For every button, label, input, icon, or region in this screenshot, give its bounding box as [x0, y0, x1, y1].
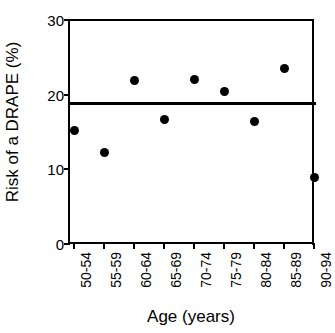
- x-axis-tick: [253, 243, 255, 249]
- x-axis-tick: [163, 243, 165, 249]
- x-axis-tick-label: 70-74: [199, 252, 213, 306]
- data-point: [160, 115, 169, 124]
- reference-line: [70, 102, 316, 105]
- data-point: [70, 126, 79, 135]
- x-axis-tick-label-text: 85-89: [289, 252, 303, 306]
- x-axis-tick-label-text: 75-79: [229, 252, 243, 306]
- x-axis-tick: [313, 243, 315, 249]
- x-axis-tick-label-text: 50-54: [79, 252, 93, 306]
- y-axis-tick: [64, 243, 70, 245]
- x-axis-tick-label: 60-64: [139, 252, 153, 306]
- data-point: [250, 117, 259, 126]
- x-axis-tick-label-text: 80-84: [259, 252, 273, 306]
- x-axis-tick-label: 55-59: [109, 252, 123, 306]
- x-axis-title: Age (years): [68, 307, 314, 327]
- x-axis-tick-label-text: 65-69: [169, 252, 183, 306]
- x-axis-tick-label-text: 60-64: [139, 252, 153, 306]
- x-axis-tick-label: 65-69: [169, 252, 183, 306]
- x-axis-tick: [133, 243, 135, 249]
- x-axis-tick-label: 90-94: [319, 252, 333, 306]
- data-point: [280, 64, 289, 73]
- x-axis-tick: [103, 243, 105, 249]
- y-axis-tick-label: 30: [34, 13, 64, 28]
- y-axis-tick-label: 10: [34, 162, 64, 177]
- y-axis-title: Risk of a DRAPE (%): [2, 0, 24, 244]
- x-axis-tick-labels: 50-5455-5960-6465-6970-7475-7980-8485-89…: [68, 252, 314, 307]
- y-axis-tick-label: 20: [34, 87, 64, 102]
- y-axis-tick: [64, 94, 70, 96]
- y-axis-tick-labels: 0102030: [30, 0, 64, 333]
- data-point: [100, 148, 109, 157]
- plot-area: [68, 20, 314, 244]
- y-axis-tick-label: 0: [34, 237, 64, 252]
- x-axis-tick-label-text: 90-94: [319, 252, 333, 306]
- y-axis-tick: [64, 168, 70, 170]
- data-point: [220, 87, 229, 96]
- x-axis-tick: [283, 243, 285, 249]
- data-point: [130, 76, 139, 85]
- data-point: [190, 75, 199, 84]
- chart-figure: Risk of a DRAPE (%) 0102030 50-5455-5960…: [0, 0, 335, 333]
- x-axis-tick: [193, 243, 195, 249]
- x-axis-tick-label: 50-54: [79, 252, 93, 306]
- x-axis-tick: [223, 243, 225, 249]
- data-point: [310, 173, 319, 182]
- x-axis-tick: [73, 243, 75, 249]
- x-axis-tick-label-text: 55-59: [109, 252, 123, 306]
- plot-inner: [70, 20, 314, 242]
- x-axis-tick-label-text: 70-74: [199, 252, 213, 306]
- y-axis-tick: [64, 19, 70, 21]
- x-axis-tick-label: 80-84: [259, 252, 273, 306]
- x-axis-tick-label: 75-79: [229, 252, 243, 306]
- x-axis-tick-label: 85-89: [289, 252, 303, 306]
